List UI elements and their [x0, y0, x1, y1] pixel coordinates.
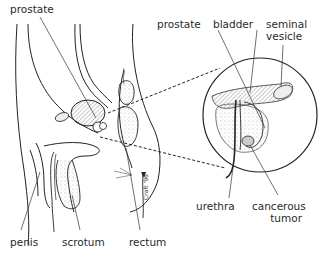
label-rectum: rectum: [129, 236, 166, 248]
label-scrotum: scrotum: [62, 236, 105, 248]
label-urethra: urethra: [196, 200, 235, 212]
seminal-vesicle-shape: [119, 81, 134, 105]
label-bladder: bladder: [213, 18, 253, 30]
rectum-shape: [118, 107, 138, 147]
label-prostate-inset: prostate: [157, 18, 201, 30]
label-seminal-vesicle: seminal vesicle: [266, 18, 302, 42]
artist-signature: Craft '96: [142, 174, 149, 200]
label-penis: penis: [10, 236, 38, 248]
anatomy-diagram: Craft '96 prostate prostate bladder semi…: [0, 0, 319, 265]
label-cancerous-tumor: cancerous tumor: [252, 200, 302, 224]
body-outline: [16, 24, 160, 245]
label-prostate: prostate: [10, 3, 54, 15]
penis-shape: [36, 143, 50, 208]
tumor-shape: [242, 136, 254, 146]
scrotum-shape: [56, 160, 80, 209]
